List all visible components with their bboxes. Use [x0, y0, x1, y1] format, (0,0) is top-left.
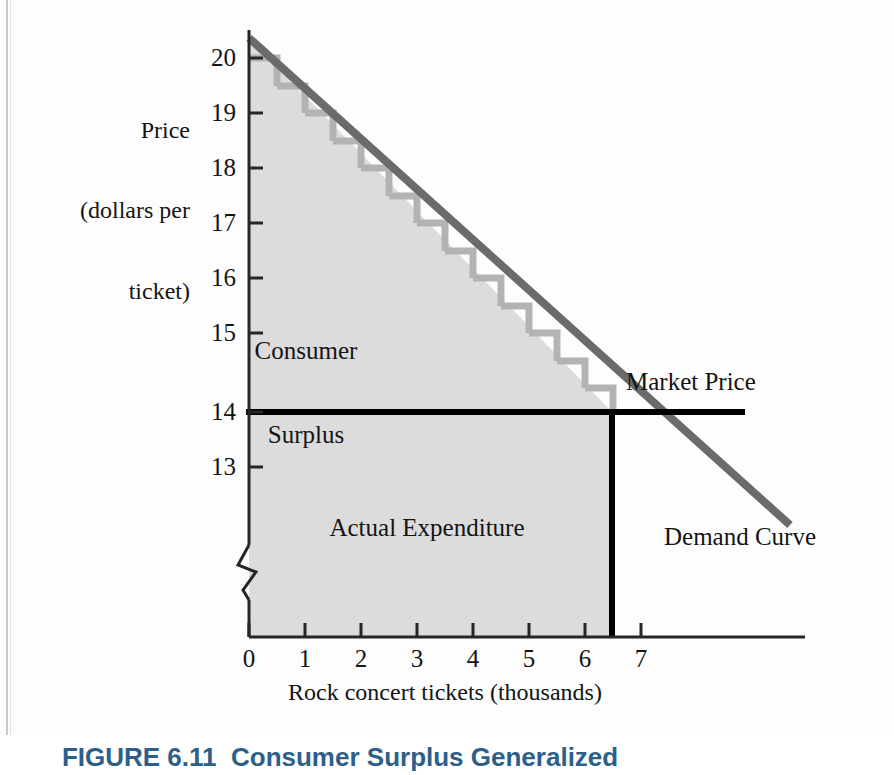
- y-axis-title-line-1: Price: [20, 117, 190, 144]
- y-axis-title: Price (dollars per ticket): [20, 63, 190, 359]
- figure-caption-spacer: [217, 742, 231, 772]
- x-tick-label-0: 0: [229, 645, 269, 673]
- figure-caption: FIGURE 6.11 Consumer Surplus Generalized: [33, 711, 618, 775]
- consumer-surplus-label-line-2: Surplus: [186, 421, 426, 449]
- actual-expenditure-label: Actual Expenditure: [267, 514, 587, 542]
- y-tick-label-19: 19: [196, 99, 236, 127]
- y-tick-label-18: 18: [196, 154, 236, 182]
- x-tick-label-7: 7: [621, 645, 661, 673]
- x-tick-label-5: 5: [509, 645, 549, 673]
- figure-caption-number: FIGURE 6.11: [62, 742, 217, 772]
- y-tick-label-20: 20: [196, 44, 236, 72]
- figure-caption-title: Consumer Surplus Generalized: [231, 742, 618, 772]
- x-tick-label-3: 3: [397, 645, 437, 673]
- y-axis-title-line-3: ticket): [20, 278, 190, 305]
- demand-curve-label: Demand Curve: [664, 523, 816, 551]
- x-tick-label-2: 2: [341, 645, 381, 673]
- y-axis-title-line-2: (dollars per: [20, 197, 190, 224]
- y-tick-label-17: 17: [196, 209, 236, 237]
- consumer-surplus-label-line-1: Consumer: [186, 337, 426, 365]
- x-tick-label-6: 6: [565, 645, 605, 673]
- market-price-label: Market Price: [626, 368, 756, 396]
- x-tick-label-4: 4: [453, 645, 493, 673]
- x-axis-title: Rock concert tickets (thousands): [195, 679, 695, 706]
- consumer-surplus-label: Consumer Surplus: [186, 281, 426, 505]
- x-tick-label-1: 1: [285, 645, 325, 673]
